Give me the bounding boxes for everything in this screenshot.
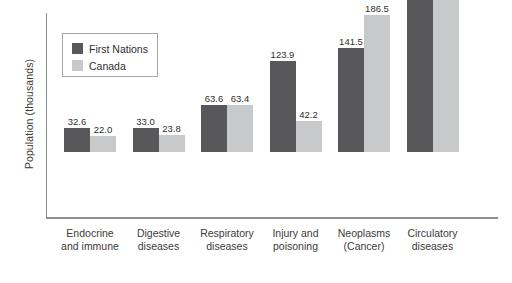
bar: 42.2 (296, 121, 322, 152)
x-axis-category-label-line: Circulatory (388, 227, 478, 240)
legend-item: Canada (72, 58, 157, 73)
bar-value-label: 63.4 (220, 93, 260, 104)
bar: 63.4 (227, 105, 253, 152)
bar: 23.8 (159, 135, 185, 152)
bar: 123.9 (270, 61, 296, 152)
bar-value-label: 123.9 (263, 49, 303, 60)
legend-item-label: Canada (89, 60, 126, 72)
legend-swatch-icon (72, 43, 83, 54)
bar-value-label: 186.5 (357, 3, 397, 14)
legend-item-label: First Nations (89, 43, 148, 55)
x-axis-category-label-line: diseases (388, 240, 478, 253)
chart-legend: First Nations Canada (62, 33, 158, 77)
legend-swatch-icon (72, 60, 83, 71)
bar: 213.6 (407, 0, 433, 152)
bar: 141.5 (338, 48, 364, 152)
bar-value-label: 23.8 (152, 123, 192, 134)
bar-value-label: 42.2 (289, 109, 329, 120)
bar: 22.0 (90, 136, 116, 152)
x-axis-category-label: Circulatorydiseases (388, 227, 478, 253)
bar-value-label: 22.0 (83, 124, 123, 135)
bar: 63.6 (201, 105, 227, 152)
bar-chart: Population (thousands) 32.622.033.023.86… (0, 0, 512, 283)
bar: 186.5 (364, 15, 390, 152)
legend-item: First Nations (72, 41, 157, 56)
bar: 231.8 (433, 0, 459, 152)
